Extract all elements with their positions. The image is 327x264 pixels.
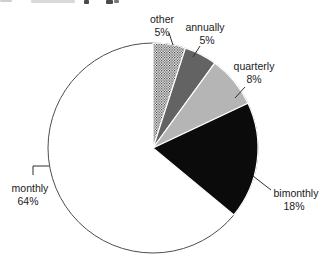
label-bimonthly: bimonthly — [274, 187, 320, 199]
leader-line-bimonthly — [253, 176, 271, 190]
value-quarterly: 8% — [246, 73, 261, 85]
cropped-title-fragment — [106, 0, 113, 4]
value-annually: 5% — [199, 34, 214, 46]
value-other: 5% — [154, 26, 169, 38]
cropped-title-fragment — [114, 0, 119, 3]
label-annually: annually — [185, 21, 225, 33]
pie-slices — [48, 43, 258, 253]
chart-area: other5%annually5%quarterly8%bimonthly18%… — [0, 0, 327, 264]
leader-line-other — [169, 33, 173, 45]
value-bimonthly: 18% — [283, 200, 304, 212]
value-monthly: 64% — [17, 195, 38, 207]
cropped-title-fragment — [31, 0, 75, 3]
label-monthly: monthly — [12, 182, 50, 194]
cropped-title-fragment — [0, 0, 12, 2]
pie-chart: other5%annually5%quarterly8%bimonthly18%… — [0, 0, 327, 264]
label-other: other — [150, 13, 174, 25]
leader-line-monthly — [33, 166, 49, 175]
cropped-title-fragment — [84, 0, 89, 4]
label-quarterly: quarterly — [234, 60, 276, 72]
